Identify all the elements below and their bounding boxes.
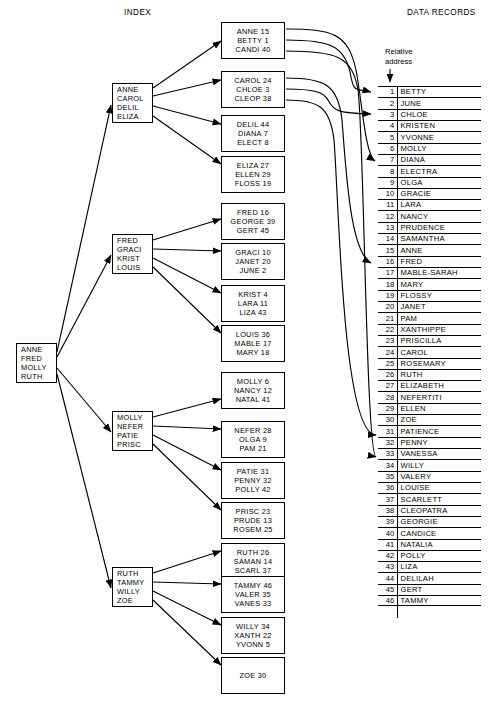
record-name: LOUISE [397,483,481,493]
table-row[interactable]: 16FRED [378,256,481,267]
record-name: GEORGIE [397,517,481,527]
leaf-louis[interactable]: LOUIS 36 MABLE 17 MARY 18 [221,325,285,362]
table-row[interactable]: 13PRUDENCE [378,222,481,233]
table-row[interactable]: 21PAM [378,312,481,323]
table-row[interactable]: 46TAMMY [378,595,481,606]
table-row[interactable]: 37SCARLETT [378,493,481,504]
leaf-graci[interactable]: GRACI 10 JANET 20 JUNE 2 [221,243,285,280]
table-row[interactable]: 20JANET [378,301,481,312]
table-row[interactable]: 14SAMANTHA [378,233,481,244]
leaf-anne[interactable]: ANNE 15 BETTY 1 CANDI 40 [221,22,285,59]
leaf-nefer[interactable]: NEFER 28 OLGA 9 PAM 21 [221,421,285,458]
node-key: ANNE [113,85,152,94]
table-row[interactable]: 38CLEOPATRA [378,505,481,516]
table-row[interactable]: 9OLGA [378,177,481,188]
record-name: CLEOPATRA [397,506,481,516]
intermediate-node-molly[interactable]: MOLLY NEFER PATIE PRISC [112,411,153,451]
table-row[interactable]: 33VANESSA [378,448,481,459]
leaf-willy[interactable]: WILLY 34 XANTH 22 YVONN 5 [221,617,285,654]
intermediate-to-leaf-edges [153,41,221,665]
leaf-patie[interactable]: PATIE 31 PENNY 32 POLLY 42 [221,462,285,499]
table-row[interactable]: 11LARA [378,199,481,210]
leaf-to-record-edges [286,29,376,457]
table-row[interactable]: 23PRISCILLA [378,335,481,346]
record-address: 18 [378,281,397,289]
intermediate-node-anne[interactable]: ANNE CAROL DELIL ELIZA [112,83,153,123]
leaf-molly[interactable]: MOLLY 6 NANCY 12 NATAL 41 [221,372,285,409]
table-row[interactable]: 26RUTH [378,369,481,380]
table-row[interactable]: 25ROSEMARY [378,358,481,369]
leaf-krist[interactable]: KRIST 4 LARA 11 LIZA 43 [221,285,285,322]
leaf-entry: VALER 35 [222,590,284,599]
table-row[interactable]: 43LIZA [378,561,481,572]
table-row[interactable]: 35VALERY [378,471,481,482]
table-row[interactable]: 24CAROL [378,346,481,357]
table-row[interactable]: 29ELLEN [378,403,481,414]
table-row[interactable]: 17MABLE-SARAH [378,267,481,278]
leaf-entry: GRACI 10 [222,248,284,257]
record-name: OLGA [397,178,481,188]
table-row[interactable]: 36LOUISE [378,482,481,493]
table-row[interactable]: 1BETTY [378,86,481,97]
node-key: ZOE [113,596,152,605]
table-row[interactable]: 12NANCY [378,210,481,221]
record-name: CHLOE [397,110,481,120]
table-row[interactable]: 2JUNE [378,97,481,108]
table-row[interactable]: 22XANTHIPPE [378,324,481,335]
table-row[interactable]: 45GERT [378,584,481,595]
table-row[interactable]: 41NATALIA [378,539,481,550]
table-row[interactable]: 19FLOSSY [378,290,481,301]
table-row[interactable]: 40CANDICE [378,527,481,538]
leaf-ruth[interactable]: RUTH 26 SAMAN 14 SCARL 37 [221,543,285,580]
table-row[interactable]: 7DIANA [378,154,481,165]
leaf-prisc[interactable]: PRISC 23 PRUDE 13 ROSEM 25 [221,502,285,539]
leaf-entry: YVONN 5 [222,640,284,649]
record-name: PENNY [397,438,481,448]
leaf-zoe[interactable]: ZOE 30 [221,657,285,694]
record-name: BETTY [397,87,481,97]
record-name: FRED [397,257,481,267]
leaf-entry: TAMMY 46 [222,581,284,590]
table-row[interactable]: 15ANNE [378,244,481,255]
record-name: ELLEN [397,404,481,414]
table-row[interactable]: 3CHLOE [378,109,481,120]
table-row[interactable]: 34WILLY [378,459,481,470]
root-node[interactable]: ANNE FRED MOLLY RUTH [16,343,57,383]
leaf-tammy[interactable]: TAMMY 46 VALER 35 VANES 33 [221,576,285,613]
table-row[interactable]: 44DELILAH [378,572,481,583]
table-row[interactable]: 39GEORGIE [378,516,481,527]
node-key: RUTH [113,569,152,578]
intermediate-node-fred[interactable]: FRED GRACI KRIST LOUIS [112,234,153,274]
record-name: MOLLY [397,144,481,154]
table-row[interactable]: 42POLLY [378,550,481,561]
leaf-eliza[interactable]: ELIZA 27 ELLEN 29 FLOSS 19 [221,156,285,193]
record-address: 12 [378,213,397,221]
leaf-carol[interactable]: CAROL 24 CHLOE 3 CLEOP 38 [221,71,285,108]
relative-address-label-line1: Relative [385,47,412,57]
table-row[interactable]: 10GRACIE [378,188,481,199]
table-row[interactable]: 6MOLLY [378,143,481,154]
leaf-entry: ANNE 15 [222,27,284,36]
record-address: 34 [378,462,397,470]
node-key: WILLY [113,587,152,596]
table-row[interactable]: 8ELECTRA [378,165,481,176]
record-address: 42 [378,552,397,560]
table-row[interactable]: 5YVONNE [378,131,481,142]
table-row[interactable]: 31PATIENCE [378,425,481,436]
record-address: 27 [378,382,397,390]
table-row[interactable]: 32PENNY [378,437,481,448]
record-address: 1 [378,88,397,96]
table-row[interactable]: 4KRISTEN [378,120,481,131]
leaf-fred[interactable]: FRED 16 GEORGE 39 GERT 45 [221,203,285,240]
table-row[interactable]: 27ELIZABETH [378,380,481,391]
leaf-entry: BETTY 1 [222,36,284,45]
leaf-entry: GERT 45 [222,226,284,235]
leaf-entry: JANET 20 [222,257,284,266]
index-heading: INDEX [124,8,151,17]
table-row[interactable]: 30ZOE [378,414,481,425]
table-row[interactable]: 18MARY [378,278,481,289]
intermediate-node-ruth[interactable]: RUTH TAMMY WILLY ZOE [112,567,153,607]
leaf-delil[interactable]: DELIL 44 DIANA 7 ELECT 8 [221,115,285,152]
record-address: 25 [378,360,397,368]
table-row[interactable]: 28NEFERTITI [378,391,481,402]
